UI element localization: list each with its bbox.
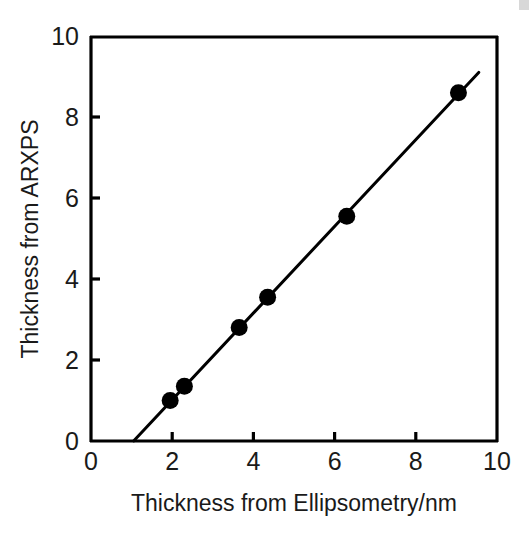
- y-tick-label: 0: [65, 427, 79, 455]
- data-point: [450, 84, 467, 101]
- y-axis-title: Thickness from ARXPS: [17, 119, 43, 358]
- x-tick-label: 0: [84, 447, 98, 475]
- data-point: [231, 319, 248, 336]
- page-corner-artifact: [519, 0, 529, 10]
- x-tick-label: 10: [483, 447, 511, 475]
- x-tick-label: 2: [165, 447, 179, 475]
- y-tick-label: 10: [51, 22, 79, 50]
- x-axis-tick-labels: 0246810: [84, 447, 511, 475]
- data-point: [259, 289, 276, 306]
- x-axis-title: Thickness from Ellipsometry/nm: [131, 490, 457, 516]
- data-point: [338, 208, 355, 225]
- x-tick-label: 8: [409, 447, 423, 475]
- axes-frame: [90, 36, 498, 442]
- figure-container: 0246810 0246810 Thickness from Ellipsome…: [0, 0, 532, 534]
- y-axis-tick-labels: 0246810: [51, 22, 79, 455]
- x-tick-label: 6: [328, 447, 342, 475]
- y-tick-label: 2: [65, 346, 79, 374]
- scatter-plot: 0246810 0246810 Thickness from Ellipsome…: [0, 0, 532, 534]
- y-tick-label: 6: [65, 184, 79, 212]
- y-tick-label: 4: [65, 265, 79, 293]
- y-tick-label: 8: [65, 103, 79, 131]
- x-tick-label: 4: [246, 447, 260, 475]
- data-point: [162, 392, 179, 409]
- data-point: [176, 378, 193, 395]
